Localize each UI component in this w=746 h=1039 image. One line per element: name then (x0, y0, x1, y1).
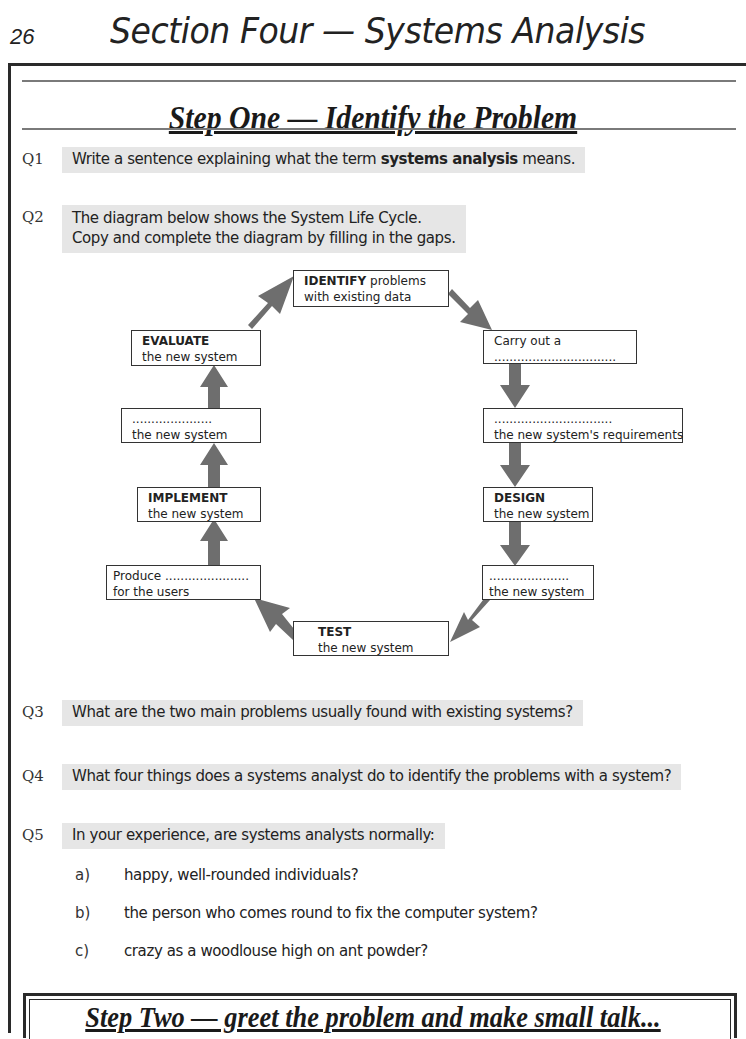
evaluate-label: EVALUATE (142, 333, 260, 349)
option-label-a: a) (75, 866, 90, 884)
produce-desc: for the users (113, 584, 260, 600)
arrow-blank-to-evaluate (200, 365, 228, 408)
carry-out-label[interactable]: Carry out a (494, 333, 636, 349)
arrow-identify-to-carry-out (448, 289, 492, 330)
arrow-design-to-blank (500, 521, 530, 566)
box-test: TEST the new system (293, 621, 449, 656)
blank-right-blank[interactable]: ..................... (489, 568, 593, 584)
identify-label: IDENTIFY (304, 274, 366, 288)
arrow-test-to-produce (254, 598, 298, 640)
step-two-title: Step Two — greet the problem and make sm… (45, 1000, 701, 1034)
arrow-carry-out-to-requirements (500, 363, 530, 408)
arrow-implement-to-blank (200, 443, 228, 487)
box-identify: IDENTIFY problems with existing data (293, 270, 449, 307)
option-text-c: crazy as a woodlouse high on ant powder? (124, 942, 428, 960)
arrow-produce-to-implement (200, 519, 228, 565)
question-number-q3: Q3 (22, 703, 44, 721)
arrow-evaluate-to-identify (248, 276, 294, 329)
box-evaluate: EVALUATE the new system (131, 330, 261, 366)
box-requirements: ............................... the new … (483, 408, 683, 443)
evaluate-desc: the new system (142, 349, 260, 365)
box-blank-left: ..................... the new system (121, 408, 261, 443)
design-label: DESIGN (494, 490, 592, 506)
question-text-q4: What four things does a systems analyst … (62, 764, 681, 790)
question-number-q5: Q5 (22, 826, 44, 844)
box-carry-out: Carry out a ............................… (483, 330, 637, 364)
identify-desc: with existing data (304, 289, 448, 305)
box-design: DESIGN the new system (483, 487, 593, 522)
box-blank-right: ..................... the new system (482, 565, 594, 600)
box-implement: IMPLEMENT the new system (137, 487, 261, 522)
identify-label-rest: problems (366, 274, 426, 288)
implement-label: IMPLEMENT (148, 490, 260, 506)
arrow-blank-to-test (450, 596, 490, 642)
carry-out-blank[interactable]: ................................ (494, 349, 636, 365)
option-label-b: b) (75, 904, 90, 922)
test-desc: the new system (318, 640, 448, 656)
blank-left-desc: the new system (132, 427, 260, 443)
blank-right-desc: the new system (489, 584, 593, 600)
blank-left-blank[interactable]: ..................... (132, 411, 260, 427)
arrow-requirements-to-design (500, 443, 530, 487)
option-text-a: happy, well-rounded individuals? (124, 866, 358, 884)
design-desc: the new system (494, 506, 592, 522)
box-produce: Produce ...................... for the u… (106, 565, 261, 600)
question-number-q4: Q4 (22, 767, 44, 785)
implement-desc: the new system (148, 506, 260, 522)
produce-blank[interactable]: Produce ...................... (113, 568, 260, 584)
question-text-q5: In your experience, are systems analysts… (62, 823, 445, 849)
requirements-blank[interactable]: ............................... (494, 411, 682, 427)
question-text-q3: What are the two main problems usually f… (62, 700, 583, 726)
test-label: TEST (318, 624, 448, 640)
requirements-desc: the new system's requirements (494, 427, 682, 443)
option-label-c: c) (75, 942, 89, 960)
option-text-b: the person who comes round to fix the co… (124, 904, 537, 922)
